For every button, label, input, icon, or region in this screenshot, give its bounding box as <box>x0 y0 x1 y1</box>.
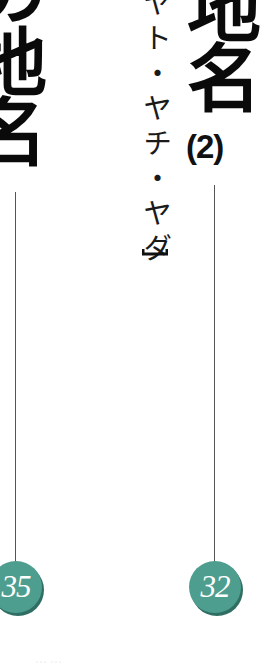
closing-bracket-icon <box>142 248 168 256</box>
right-column-title: 地名 <box>180 0 254 110</box>
right-column-subtitle: ヤト・ヤチ・ヤダ <box>140 0 169 268</box>
right-vertical-rule <box>214 185 215 565</box>
right-page-number-badge[interactable]: 32 <box>189 561 241 613</box>
left-page-number-badge[interactable]: 35 <box>0 561 42 613</box>
faint-footer-text: …… <box>35 652 65 665</box>
left-vertical-rule <box>15 192 16 564</box>
left-column-title: の地名 <box>0 0 40 164</box>
part-number: (2) <box>186 128 223 166</box>
page-number: 32 <box>201 569 230 605</box>
page-number: 35 <box>2 569 31 605</box>
